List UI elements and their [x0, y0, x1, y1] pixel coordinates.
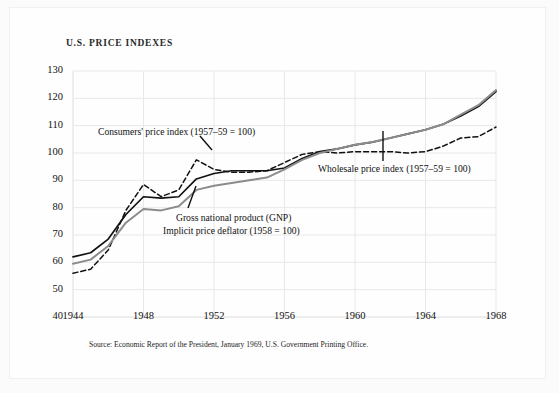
- source-note: Source: Economic Report of the President…: [89, 340, 368, 349]
- annotation-wholesale-price-index: Wholesale price index (1957–59 = 100): [318, 163, 471, 174]
- annotation-consumers-price-index: Consumers' price index (1957–59 = 100): [98, 126, 255, 137]
- annotation-gnp-line2: Implicit price deflator (1958 = 100): [163, 225, 300, 236]
- leader-line-consumers: [200, 136, 212, 150]
- x-tick-1948: 1948: [124, 310, 164, 321]
- y-tick-50: 50: [37, 283, 63, 294]
- y-tick-80: 80: [37, 201, 63, 212]
- y-tick-130: 130: [37, 64, 63, 75]
- y-tick-100: 100: [37, 146, 63, 157]
- x-tick-1952: 1952: [194, 310, 234, 321]
- price-index-line-chart: [0, 0, 559, 393]
- annotation-gnp-line1: Gross national product (GNP): [176, 212, 291, 223]
- y-tick-110: 110: [37, 119, 63, 130]
- x-tick-1944: 1944: [53, 310, 93, 321]
- x-tick-1956: 1956: [265, 310, 305, 321]
- x-tick-1960: 1960: [335, 310, 375, 321]
- x-tick-1964: 1964: [406, 310, 446, 321]
- x-tick-1968: 1968: [476, 310, 516, 321]
- y-tick-70: 70: [37, 228, 63, 239]
- y-tick-120: 120: [37, 91, 63, 102]
- chart-page: U.S. PRICE INDEXES 405060708090100110120…: [0, 0, 559, 393]
- y-tick-90: 90: [37, 173, 63, 184]
- y-tick-60: 60: [37, 255, 63, 266]
